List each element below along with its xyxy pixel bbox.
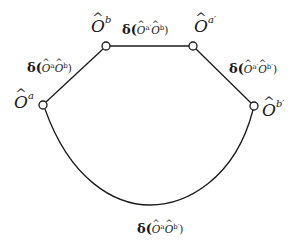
suffix: ) bbox=[179, 223, 183, 235]
second-operator: O bbox=[55, 62, 64, 74]
node-label-oa-prime: Oa′ bbox=[194, 16, 216, 36]
second-operator: O bbox=[165, 223, 174, 235]
node-superscript: a bbox=[28, 90, 34, 101]
node-label-ob: Ob bbox=[91, 16, 111, 36]
delta-prefix: δ( bbox=[27, 60, 42, 75]
second-operator: O bbox=[151, 24, 160, 36]
delta-prefix: δ( bbox=[122, 22, 137, 37]
node-oa bbox=[39, 101, 47, 109]
node-symbol: O bbox=[194, 16, 208, 36]
node-symbol: O bbox=[14, 92, 28, 112]
edge-oa-prime-ob-prime bbox=[196, 49, 251, 103]
suffix: ) bbox=[68, 62, 72, 74]
second-operator: O bbox=[258, 63, 267, 75]
edge-label-oa-prime-ob-prime: δ(Oa′Ob′) bbox=[229, 61, 277, 76]
node-superscript: a′ bbox=[208, 14, 216, 25]
node-oa-prime bbox=[189, 42, 197, 50]
delta-prefix: δ( bbox=[229, 61, 244, 76]
node-superscript: b bbox=[105, 14, 111, 25]
first-operator: O bbox=[42, 62, 51, 74]
edge-oa-ob-prime-curve bbox=[45, 109, 253, 205]
edge-label-oa-ob-prime: δ(OaOb′) bbox=[137, 221, 183, 236]
delta-prefix: δ( bbox=[137, 221, 152, 236]
edge-label-oa-ob: δ(OaOb) bbox=[27, 60, 72, 75]
edge-label-ob-oa-prime: δ(Oa′Ob) bbox=[122, 22, 168, 37]
node-symbol: O bbox=[262, 100, 276, 120]
node-ob bbox=[102, 42, 110, 50]
node-symbol: O bbox=[91, 16, 105, 36]
node-label-oa: Oa bbox=[14, 92, 34, 112]
node-ob-prime bbox=[250, 102, 258, 110]
node-superscript: b′ bbox=[276, 98, 285, 109]
suffix: ) bbox=[164, 24, 168, 36]
first-operator: O bbox=[152, 223, 161, 235]
suffix: ) bbox=[273, 63, 277, 75]
node-label-ob-prime: Ob′ bbox=[262, 100, 285, 120]
first-operator: O bbox=[137, 24, 146, 36]
first-operator: O bbox=[244, 63, 253, 75]
